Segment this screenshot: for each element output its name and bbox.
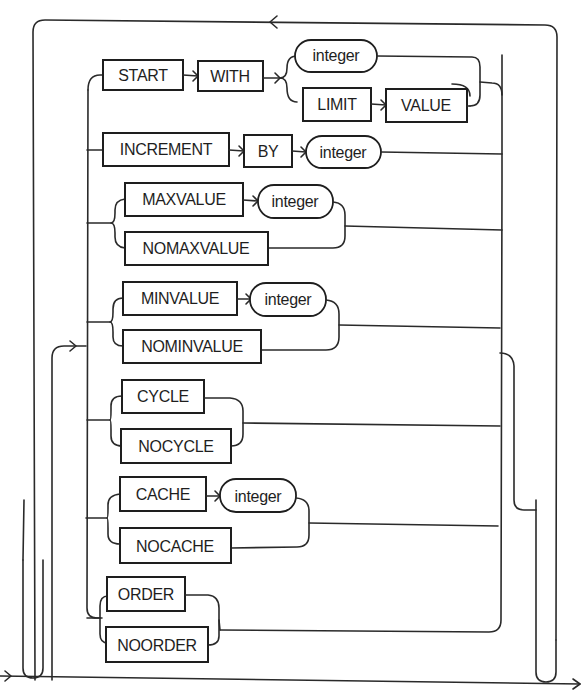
entry-bus [52, 90, 102, 680]
clause-minvalue: MINVALUE integer NOMINVALUE [87, 282, 500, 363]
clause-increment-by: INCREMENT BY integer [87, 133, 502, 168]
sequence-options-syntax-diagram: START WITH integer LIMIT VALUE INCREMENT… [0, 0, 584, 699]
label-integer-maxvalue: integer [272, 193, 320, 210]
label-minvalue: MINVALUE [141, 290, 219, 307]
clause-cycle: CYCLE NOCYCLE [87, 380, 500, 463]
label-noorder: NOORDER [117, 637, 197, 654]
label-value: VALUE [401, 97, 451, 114]
label-integer-start: integer [313, 47, 361, 64]
label-integer-cache: integer [235, 488, 283, 505]
label-maxvalue: MAXVALUE [142, 191, 226, 208]
label-nomaxvalue: NOMAXVALUE [143, 240, 250, 257]
clause-maxvalue: MAXVALUE integer NOMAXVALUE [87, 183, 502, 265]
label-start: START [118, 67, 168, 84]
label-cache: CACHE [136, 486, 191, 503]
label-with: WITH [210, 68, 250, 85]
label-integer-increment: integer [320, 144, 368, 161]
label-limit: LIMIT [317, 96, 357, 113]
label-cycle: CYCLE [137, 388, 189, 405]
label-increment: INCREMENT [120, 141, 213, 158]
clause-start-with: START WITH integer LIMIT VALUE [88, 40, 502, 122]
label-order: ORDER [118, 586, 174, 603]
label-nocycle: NOCYCLE [138, 438, 213, 455]
label-integer-minvalue: integer [265, 291, 313, 308]
clause-cache: CACHE integer NOCACHE [86, 477, 498, 563]
clause-order: ORDER NOORDER [87, 577, 220, 662]
label-by: BY [258, 143, 279, 160]
label-nocache: NOCACHE [136, 538, 214, 555]
label-nominvalue: NOMINVALUE [141, 338, 243, 355]
